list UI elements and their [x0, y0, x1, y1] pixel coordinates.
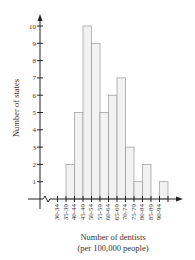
- bar-55-59: [100, 113, 109, 200]
- x-tick-label: 45-49: [79, 204, 87, 221]
- x-tick-label: 65-69: [113, 204, 121, 221]
- x-tick-label: 40-44: [70, 204, 78, 221]
- bar-75-79: [134, 182, 143, 199]
- axis-break-icon: [43, 196, 50, 202]
- x-tick-label: 50-54: [87, 204, 95, 221]
- y-tick-label: 6: [33, 92, 37, 100]
- x-tick-label: 70-74: [121, 204, 129, 221]
- bar-60-64: [109, 95, 118, 199]
- x-axis-arrow-icon: [176, 197, 183, 202]
- x-tick-label: 60-64: [104, 204, 112, 221]
- y-tick-label: 4: [33, 126, 37, 134]
- y-tick-label: 2: [33, 161, 37, 169]
- y-tick-label: 3: [33, 144, 37, 152]
- y-axis-arrow-icon: [38, 14, 43, 21]
- x-tick-label: 85-89: [147, 204, 155, 221]
- x-tick-label: 55-59: [96, 204, 104, 221]
- bar-50-54: [92, 43, 101, 199]
- histogram-chart: 1234567891030-3435-3940-4445-4950-5455-5…: [0, 0, 195, 260]
- bar-80-84: [143, 164, 152, 199]
- y-tick-label: 1: [33, 178, 37, 186]
- y-tick-label: 7: [33, 74, 37, 82]
- x-tick-label: 30-34: [53, 204, 61, 221]
- x-tick-label: 80-84: [138, 204, 146, 221]
- x-axis-label: Number of dentists: [80, 232, 145, 242]
- y-tick-label: 9: [33, 40, 37, 48]
- bar-70-74: [126, 147, 135, 199]
- x-tick-label: 90-94: [155, 204, 163, 221]
- x-axis-sublabel: (per 100,000 people): [77, 243, 148, 253]
- y-tick-label: 8: [33, 57, 37, 65]
- y-tick-label: 10: [29, 23, 37, 31]
- x-tick-label: 75-79: [130, 204, 138, 221]
- bar-90-94: [160, 182, 169, 199]
- y-axis-label: Number of states: [11, 79, 21, 137]
- x-tick-label: 35-39: [62, 204, 70, 221]
- bars: [66, 26, 168, 199]
- bar-40-44: [75, 113, 84, 200]
- bar-35-39: [66, 164, 75, 199]
- bar-45-49: [83, 26, 92, 199]
- bar-65-69: [117, 78, 126, 199]
- y-tick-label: 5: [33, 109, 37, 117]
